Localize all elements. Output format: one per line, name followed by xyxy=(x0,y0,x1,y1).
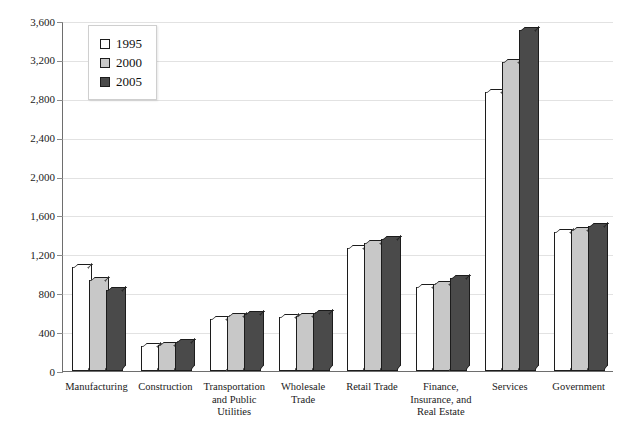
bar xyxy=(89,280,106,371)
bar xyxy=(588,226,605,371)
bar xyxy=(296,316,313,371)
y-axis-tick-label: 3,200 xyxy=(30,55,55,66)
bar xyxy=(381,239,398,371)
bar-group xyxy=(554,22,605,371)
y-axis-tick xyxy=(57,61,63,62)
y-axis-tick-label: 1,600 xyxy=(30,211,55,222)
y-axis-tick-label: 2,800 xyxy=(30,94,55,105)
legend-item: 2005 xyxy=(100,72,142,91)
bar-side-face xyxy=(260,310,264,370)
legend-swatch-icon xyxy=(100,77,110,87)
y-axis-tick-label: 800 xyxy=(39,289,56,300)
legend-swatch-icon xyxy=(100,39,110,49)
legend-item-label: 1995 xyxy=(116,37,142,50)
y-axis-tick-label: 0 xyxy=(50,367,56,378)
bar xyxy=(485,92,502,371)
chart-title-clipped xyxy=(0,0,625,7)
y-axis-tick xyxy=(57,255,63,256)
bar xyxy=(175,342,192,371)
y-axis-tick-label: 3,600 xyxy=(30,17,55,28)
legend-item-label: 2005 xyxy=(116,75,142,88)
bar xyxy=(519,30,536,371)
y-axis-tick xyxy=(57,216,63,217)
x-axis-label-line: Government xyxy=(536,381,621,394)
bar xyxy=(571,230,588,371)
bar-chart: 3,6003,2002,8002,4002,0001,6001,20080040… xyxy=(0,0,625,443)
bar xyxy=(227,316,244,371)
x-axis-label-line: Insurance, and xyxy=(398,394,483,407)
bar-group xyxy=(210,22,261,371)
legend-item: 2000 xyxy=(100,53,142,72)
bar-side-face xyxy=(191,338,195,370)
bar-side-face xyxy=(535,26,539,370)
legend: 199520002005 xyxy=(88,25,157,100)
y-axis-tick xyxy=(57,139,63,140)
bar-side-face xyxy=(122,286,126,370)
bar xyxy=(313,313,330,371)
x-axis-category-label: Government xyxy=(536,381,621,394)
bar xyxy=(364,243,381,371)
bar xyxy=(433,284,450,372)
bar xyxy=(72,267,89,371)
y-axis-tick xyxy=(57,178,63,179)
bar xyxy=(502,62,519,371)
y-axis-tick-label: 1,200 xyxy=(30,250,55,261)
y-axis-tick xyxy=(57,22,63,23)
y-axis-tick-label: 2,400 xyxy=(30,133,55,144)
y-axis-tick xyxy=(57,294,63,295)
bar-group xyxy=(416,22,467,371)
y-axis-tick xyxy=(57,372,63,373)
y-axis-tick-label: 2,000 xyxy=(30,172,55,183)
bar xyxy=(158,345,175,371)
bar xyxy=(450,278,467,371)
bar-side-face xyxy=(329,309,333,370)
bar xyxy=(416,287,433,371)
bar xyxy=(347,248,364,371)
legend-item-label: 2000 xyxy=(116,56,142,69)
y-axis-tick xyxy=(57,333,63,334)
legend-item: 1995 xyxy=(100,34,142,53)
y-axis-tick-label: 400 xyxy=(39,328,56,339)
bar xyxy=(244,314,261,371)
bar-group xyxy=(485,22,536,371)
legend-swatch-icon xyxy=(100,58,110,68)
x-axis-label-line: Trade xyxy=(261,394,346,407)
x-axis-label-line: Utilities xyxy=(192,406,277,419)
y-axis-tick xyxy=(57,100,63,101)
bar-group xyxy=(347,22,398,371)
bar-side-face xyxy=(397,235,401,370)
bar xyxy=(210,319,227,372)
bar-side-face xyxy=(466,274,470,370)
bar-group xyxy=(279,22,330,371)
bar xyxy=(554,232,571,371)
y-axis-labels: 3,6003,2002,8002,4002,0001,6001,20080040… xyxy=(0,22,55,372)
x-axis-label-line: Real Estate xyxy=(398,406,483,419)
bar xyxy=(141,346,158,371)
bar xyxy=(279,317,296,371)
bar xyxy=(106,290,123,371)
bar-side-face xyxy=(604,222,608,370)
